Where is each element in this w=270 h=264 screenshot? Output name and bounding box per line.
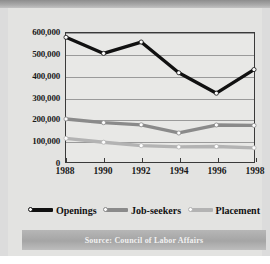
y-axis-tick-label: 300,000 bbox=[8, 93, 60, 103]
data-point-marker bbox=[214, 123, 218, 127]
plot-area bbox=[65, 32, 255, 163]
series-line bbox=[66, 119, 254, 133]
data-point-marker bbox=[102, 51, 106, 55]
chart-card: 0100,000200,000300,000400,000500,000600,… bbox=[0, 8, 270, 256]
data-point-marker bbox=[252, 123, 256, 127]
legend-item[interactable]: Placement bbox=[188, 205, 260, 216]
legend-swatch-icon bbox=[28, 205, 53, 215]
data-point-marker bbox=[102, 121, 106, 125]
legend-label: Openings bbox=[56, 205, 97, 216]
y-axis-tick-label: 400,000 bbox=[8, 71, 60, 81]
data-point-marker bbox=[64, 35, 68, 39]
x-axis-tick-label: 1988 bbox=[56, 166, 75, 176]
x-axis-tick-label: 1992 bbox=[132, 166, 151, 176]
series-line bbox=[66, 37, 254, 93]
data-point-marker bbox=[139, 123, 143, 127]
data-point-marker bbox=[64, 117, 68, 121]
legend-label: Job-seekers bbox=[131, 205, 181, 216]
legend-item[interactable]: Job-seekers bbox=[103, 205, 181, 216]
y-axis-tick-label: 0 bbox=[8, 158, 60, 168]
series-line bbox=[66, 138, 254, 147]
data-point-marker bbox=[252, 146, 256, 150]
y-axis-tick-label: 600,000 bbox=[8, 27, 60, 37]
y-axis-tick-label: 100,000 bbox=[8, 136, 60, 146]
chart-figure: 0100,000200,000300,000400,000500,000600,… bbox=[0, 0, 270, 264]
series-lines bbox=[66, 33, 254, 162]
legend-item[interactable]: Openings bbox=[28, 205, 97, 216]
x-axis-tick-label: 1998 bbox=[246, 166, 265, 176]
top-decorative-band bbox=[0, 0, 270, 8]
x-axis-tick-label: 1994 bbox=[170, 166, 189, 176]
data-point-marker bbox=[139, 40, 143, 44]
data-point-marker bbox=[139, 144, 143, 148]
chart-legend: OpeningsJob-seekersPlacement bbox=[22, 200, 266, 220]
data-point-marker bbox=[177, 131, 181, 135]
x-axis-tick-label: 1990 bbox=[94, 166, 113, 176]
legend-swatch-icon bbox=[103, 205, 128, 215]
x-axis-tick-label: 1996 bbox=[208, 166, 227, 176]
source-band: Source: Council of Labor Affairs bbox=[22, 230, 266, 250]
data-point-marker bbox=[102, 140, 106, 144]
legend-swatch-icon bbox=[188, 205, 213, 215]
data-point-marker bbox=[177, 145, 181, 149]
y-axis-tick-label: 500,000 bbox=[8, 49, 60, 59]
source-text: Source: Council of Labor Affairs bbox=[85, 236, 204, 245]
data-point-marker bbox=[64, 136, 68, 140]
data-point-marker bbox=[177, 71, 181, 75]
legend-label: Placement bbox=[216, 205, 260, 216]
y-axis-tick-label: 200,000 bbox=[8, 114, 60, 124]
x-axis-tick bbox=[256, 158, 257, 162]
data-point-marker bbox=[214, 144, 218, 148]
chart-card-inner: 0100,000200,000300,000400,000500,000600,… bbox=[8, 8, 262, 256]
data-point-marker bbox=[252, 67, 256, 71]
data-point-marker bbox=[214, 91, 218, 95]
